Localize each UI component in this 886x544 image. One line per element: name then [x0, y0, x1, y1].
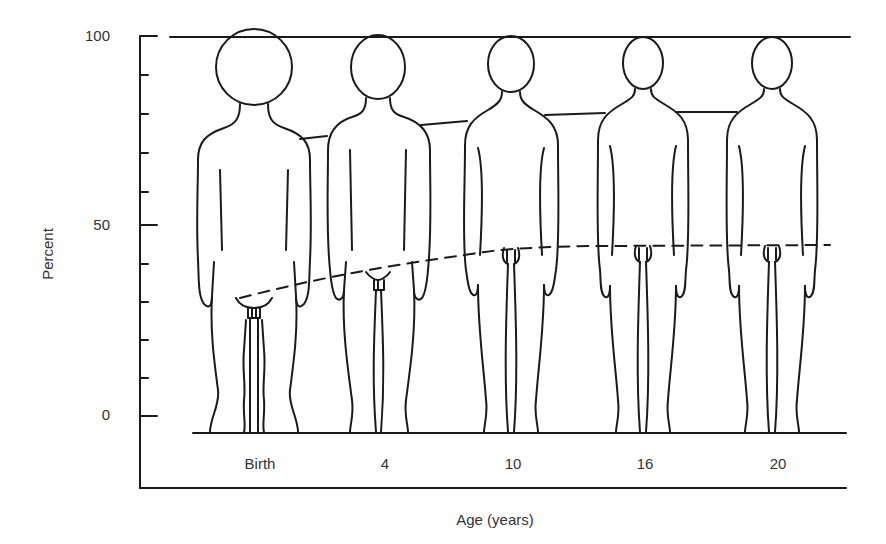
x-tick-label-16: 16: [637, 455, 654, 472]
x-tick-label-10: 10: [505, 455, 522, 472]
x-tick-label-4: 4: [381, 455, 389, 472]
shoulder-trend-line: [300, 112, 737, 139]
figure-age-20: [727, 37, 818, 432]
x-tick-label-birth: Birth: [245, 455, 276, 472]
figure-age-4: [328, 35, 431, 432]
diagram-drawing: [0, 0, 886, 544]
x-tick-label-20: 20: [770, 455, 787, 472]
y-axis: [140, 36, 157, 488]
y-tick-label-100: 100: [70, 27, 110, 44]
y-axis-label: Percent: [39, 228, 56, 280]
body-proportions-figure: 100 50 0 Percent Birth 4 10 16 20 Age (y…: [0, 0, 886, 544]
figure-age-10: [464, 36, 559, 432]
y-tick-label-50: 50: [70, 216, 110, 233]
figure-birth: [197, 29, 311, 432]
figure-age-16: [598, 37, 689, 432]
x-axis-label: Age (years): [456, 511, 534, 528]
y-tick-label-0: 0: [70, 406, 110, 423]
